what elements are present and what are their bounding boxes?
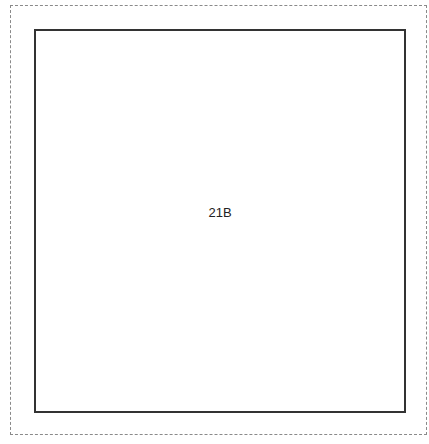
room-label: 21B	[36, 205, 404, 221]
room-outline[interactable]: 21B	[34, 29, 406, 413]
